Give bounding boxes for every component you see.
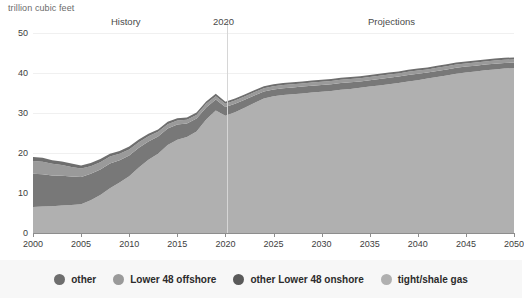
x-tick-label-2025: 2025 xyxy=(263,239,283,249)
x-tick-2005 xyxy=(81,233,82,237)
stacked-area-series xyxy=(33,33,514,233)
x-tick-label-2050: 2050 xyxy=(504,239,524,249)
x-tick-2025 xyxy=(274,233,275,237)
plot-area xyxy=(33,33,514,233)
x-tick-2045 xyxy=(466,233,467,237)
x-tick-2035 xyxy=(370,233,371,237)
x-tick-2030 xyxy=(322,233,323,237)
legend-label: other xyxy=(71,274,96,285)
x-tick-2010 xyxy=(129,233,130,237)
y-tick-label-10: 10 xyxy=(8,188,28,198)
annotation-2020: 2020 xyxy=(213,16,234,27)
x-tick-2020 xyxy=(225,233,226,237)
y-tick-label-20: 20 xyxy=(8,148,28,158)
chart-legend: otherLower 48 offshoreother Lower 48 ons… xyxy=(0,260,522,298)
annotation-projections: Projections xyxy=(368,16,415,27)
y-tick-label-30: 30 xyxy=(8,108,28,118)
x-tick-label-2000: 2000 xyxy=(23,239,43,249)
x-tick-label-2010: 2010 xyxy=(119,239,139,249)
x-tick-label-2020: 2020 xyxy=(215,239,235,249)
legend-item-lower-48-offshore[interactable]: Lower 48 offshore xyxy=(113,274,216,285)
x-tick-label-2030: 2030 xyxy=(312,239,332,249)
legend-label: other Lower 48 onshore xyxy=(250,274,363,285)
y-tick-label-40: 40 xyxy=(8,68,28,78)
x-tick-label-2005: 2005 xyxy=(71,239,91,249)
legend-swatch-icon xyxy=(113,274,124,285)
y-tick-label-50: 50 xyxy=(8,28,28,38)
x-tick-2050 xyxy=(514,233,515,237)
x-tick-label-2045: 2045 xyxy=(456,239,476,249)
legend-swatch-icon xyxy=(233,274,244,285)
x-tick-2000 xyxy=(33,233,34,237)
y-tick-label-0: 0 xyxy=(8,228,28,238)
legend-item-tight-shale-gas[interactable]: tight/shale gas xyxy=(381,274,468,285)
legend-item-other[interactable]: other xyxy=(54,274,96,285)
annotation-history: History xyxy=(111,16,141,27)
history-projection-divider xyxy=(227,22,228,233)
legend-swatch-icon xyxy=(381,274,392,285)
x-tick-2040 xyxy=(418,233,419,237)
x-tick-label-2015: 2015 xyxy=(167,239,187,249)
x-tick-2015 xyxy=(177,233,178,237)
legend-label: tight/shale gas xyxy=(398,274,468,285)
y-axis-title: trillion cubic feet xyxy=(8,3,74,13)
x-tick-label-2040: 2040 xyxy=(408,239,428,249)
legend-label: Lower 48 offshore xyxy=(130,274,216,285)
legend-item-other-lower-48-onshore[interactable]: other Lower 48 onshore xyxy=(233,274,363,285)
x-tick-label-2035: 2035 xyxy=(360,239,380,249)
legend-swatch-icon xyxy=(54,274,65,285)
